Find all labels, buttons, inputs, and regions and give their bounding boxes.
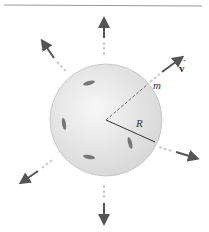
top-rule <box>4 5 202 6</box>
radius-label: R <box>136 117 143 129</box>
velocity-label: →v <box>179 62 185 74</box>
mass-label: m <box>153 79 161 91</box>
arrow-up-left <box>43 42 66 71</box>
diagram-canvas <box>0 0 209 232</box>
arrow-down-right <box>159 147 196 158</box>
arrow-down-left <box>22 160 52 182</box>
